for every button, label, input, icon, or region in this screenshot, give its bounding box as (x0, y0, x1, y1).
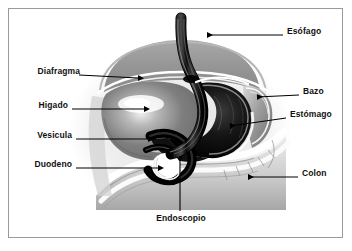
label-bazo: Bazo (303, 86, 324, 96)
label-higado: Higado (18, 100, 68, 110)
label-diafragma: Diafragma (18, 66, 80, 76)
label-duodeno: Duodeno (18, 159, 72, 169)
figure-root: Diafragma Higado Vesicula Duodeno Esófag… (0, 0, 352, 251)
label-colon: Colon (302, 168, 327, 178)
label-endoscopio: Endoscopio (152, 213, 210, 223)
label-estomago: Estómago (290, 109, 332, 119)
label-vesicula: Vesicula (18, 130, 72, 140)
label-esofago: Esófago (287, 26, 321, 36)
